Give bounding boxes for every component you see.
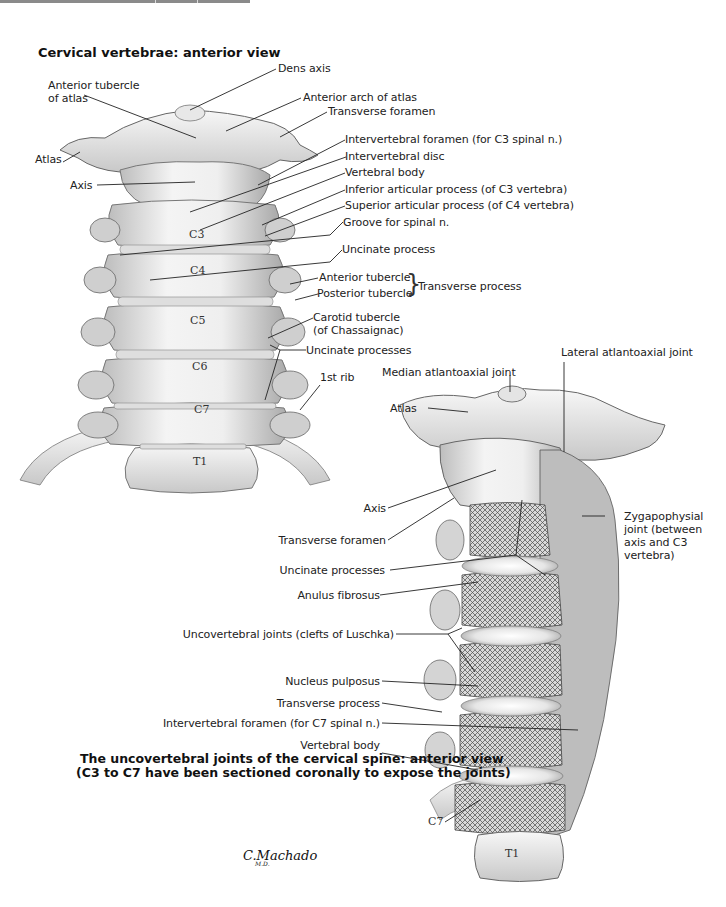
vertebra-label-t1: T1 [193, 455, 207, 468]
label-groove-spinal-n: Groove for spinal n. [343, 216, 449, 229]
bottom-figure-caption-line1: The uncovertebral joints of the cervical… [80, 752, 504, 766]
dens-tip [175, 105, 205, 121]
label-inferior-articular-process: Inferior articular process (of C3 verteb… [345, 183, 567, 196]
label-posterior-tubercle: Posterior tubercle [317, 287, 413, 300]
label-anterior-tubercle: Anterior tubercle [319, 271, 410, 284]
bottom-figure-caption-line2: (C3 to C7 have been sectioned coronally … [76, 766, 511, 780]
label-vertebral-body-top: Vertebral body [345, 166, 425, 179]
label-uncinate-processes-bottom: Uncinate processes [280, 564, 385, 577]
label-anterior-tubercle-atlas-line2: of atlas [48, 92, 88, 105]
label-intervertebral-foramen-c7: Intervertebral foramen (for C7 spinal n.… [163, 717, 380, 730]
label-dens-axis: Dens axis [278, 62, 331, 75]
vertebra-label-c4: C4 [190, 264, 205, 277]
vertebra-label-c5: C5 [190, 314, 205, 327]
vertebra-label-c7: C7 [194, 403, 209, 416]
vertebra-label-c7-bottom: C7 [428, 815, 443, 828]
vertebra-label-c6: C6 [192, 360, 207, 373]
vertebra-label-t1-bottom: T1 [505, 847, 519, 860]
label-nucleus-pulposus: Nucleus pulposus [285, 675, 380, 688]
label-uncinate-processes-top: Uncinate processes [306, 344, 411, 357]
top-spine-illustration [20, 105, 330, 493]
left-transverse-processes [424, 520, 464, 768]
label-transverse-foramen-top: Transverse foramen [328, 105, 435, 118]
label-zygapophysial-joint: Zygapophysial joint (between axis and C3… [624, 510, 724, 562]
label-anterior-arch-atlas: Anterior arch of atlas [303, 91, 417, 104]
label-atlas-top: Atlas [35, 153, 62, 166]
label-carotid-tubercle-line1: Carotid tubercle [313, 311, 400, 324]
label-atlas-bottom: Atlas [390, 402, 417, 415]
label-transverse-foramen-bottom: Transverse foramen [279, 534, 386, 547]
label-uncovertebral-joints: Uncovertebral joints (clefts of Luschka) [183, 628, 394, 641]
label-intervertebral-foramen-c3: Intervertebral foramen (for C3 spinal n.… [345, 133, 562, 146]
label-intervertebral-disc: Intervertebral disc [345, 150, 444, 163]
vertebra-label-c3: C3 [189, 228, 204, 241]
label-anulus-fibrosus: Anulus fibrosus [297, 589, 380, 602]
label-axis-bottom: Axis [364, 502, 386, 515]
label-uncinate-process: Uncinate process [342, 243, 435, 256]
artist-signature: C.Machado M.D. [243, 848, 317, 867]
label-carotid-tubercle-line2: (of Chassaignac) [313, 324, 403, 337]
label-first-rib: 1st rib [320, 371, 354, 384]
label-axis-top: Axis [70, 179, 92, 192]
top-figure-title: Cervical vertebrae: anterior view [38, 45, 280, 60]
label-anterior-tubercle-atlas-line1: Anterior tubercle [48, 79, 139, 92]
label-superior-articular-process: Superior articular process (of C4 verteb… [345, 199, 574, 212]
label-median-atlantoaxial-joint: Median atlantoaxial joint [382, 366, 516, 379]
label-transverse-process-bottom: Transverse process [277, 697, 380, 710]
label-lateral-atlantoaxial-joint: Lateral atlantoaxial joint [561, 346, 693, 359]
label-transverse-process-top: Transverse process [418, 280, 521, 293]
